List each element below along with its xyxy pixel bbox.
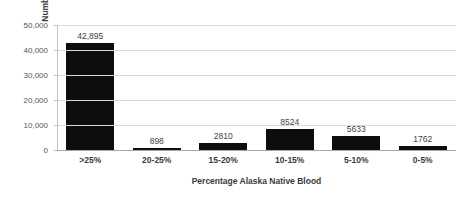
bar[interactable] bbox=[332, 136, 380, 150]
gridline bbox=[57, 25, 456, 26]
y-axis-tick-label: 0 bbox=[44, 146, 48, 155]
bar-slot: 898 bbox=[133, 25, 181, 150]
gridline bbox=[57, 50, 456, 51]
x-axis-tick-label: 20-25% bbox=[124, 154, 191, 166]
bar-value-label: 1762 bbox=[383, 134, 463, 144]
plot-area: 42,8958982810852456331762 bbox=[57, 25, 456, 151]
y-axis-tick-mark bbox=[54, 50, 57, 51]
y-axis-tick-mark bbox=[54, 150, 57, 151]
y-axis-tick-label: 10,000 bbox=[24, 121, 48, 130]
bars-layer: 42,8958982810852456331762 bbox=[57, 25, 456, 151]
bar-chart: Number of Individuals Issued a CDIB 010,… bbox=[0, 0, 467, 201]
bar-value-label: 2810 bbox=[183, 131, 263, 141]
y-axis-tick-mark bbox=[54, 25, 57, 26]
gridline bbox=[57, 75, 456, 76]
x-axis-tick-label: 5-10% bbox=[323, 154, 390, 166]
x-axis-tick-label: 15-20% bbox=[190, 154, 257, 166]
bar-slot: 1762 bbox=[399, 25, 447, 150]
bar[interactable] bbox=[266, 129, 314, 150]
bar-slot: 8524 bbox=[266, 25, 314, 150]
x-axis-title: Percentage Alaska Native Blood bbox=[57, 176, 456, 187]
bar-value-label: 42,895 bbox=[50, 31, 130, 41]
bar[interactable] bbox=[199, 143, 247, 150]
gridline bbox=[57, 100, 456, 101]
x-axis-tick-label: >25% bbox=[57, 154, 124, 166]
y-axis-tick-mark bbox=[54, 100, 57, 101]
gridline bbox=[57, 150, 456, 151]
x-axis-tick-labels: >25%20-25%15-20%10-15%5-10%0-5% bbox=[57, 154, 456, 168]
y-axis-tick-label: 50,000 bbox=[24, 21, 48, 30]
y-axis-tick-label: 40,000 bbox=[24, 46, 48, 55]
x-axis-tick-label: 0-5% bbox=[390, 154, 457, 166]
x-axis-tick-label: 10-15% bbox=[257, 154, 324, 166]
bar-slot: 2810 bbox=[199, 25, 247, 150]
y-axis-tick-label: 20,000 bbox=[24, 96, 48, 105]
y-axis-tick-mark bbox=[54, 75, 57, 76]
gridline bbox=[57, 125, 456, 126]
bar-slot: 5633 bbox=[332, 25, 380, 150]
bar[interactable] bbox=[66, 43, 114, 150]
y-axis-tick-label: 30,000 bbox=[24, 71, 48, 80]
y-axis-tick-mark bbox=[54, 125, 57, 126]
y-axis-tick-labels: 010,00020,00030,00040,00050,000 bbox=[0, 15, 52, 155]
bar-slot: 42,895 bbox=[66, 25, 114, 150]
